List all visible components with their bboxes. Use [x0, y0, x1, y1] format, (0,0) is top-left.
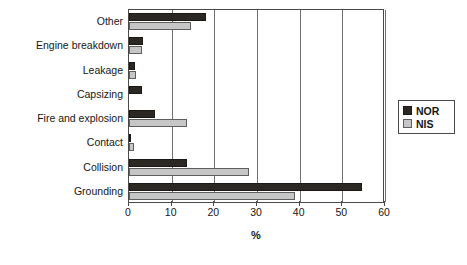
bar-group [129, 83, 383, 107]
bar-group [129, 131, 383, 155]
legend-item-nor: NOR [403, 104, 450, 117]
bar-nis [129, 71, 136, 79]
bar-nor [129, 159, 187, 167]
x-axis-tick-label-0: 0 [125, 206, 131, 219]
legend-label-nis: NIS [416, 118, 434, 130]
black-square-swatch-icon [403, 106, 412, 115]
y-axis-label-contact: Contact [0, 136, 123, 148]
x-axis-tick-label-10: 10 [165, 206, 177, 219]
y-axis-category-labels: OtherEngine breakdownLeakageCapsizingFir… [0, 9, 123, 203]
y-axis-label-capsizing: Capsizing [0, 88, 123, 100]
x-axis-tick-label-60: 60 [378, 206, 390, 219]
y-axis-label-fire-and-explosion: Fire and explosion [0, 112, 123, 124]
y-axis-label-other: Other [0, 15, 123, 27]
bar-nis [129, 168, 249, 176]
y-axis-label-grounding: Grounding [0, 185, 123, 197]
x-axis-tick-label-20: 20 [207, 206, 219, 219]
bar-group [129, 34, 383, 58]
bar-nis [129, 22, 191, 30]
x-axis-title: % [128, 229, 384, 241]
bar-group [129, 59, 383, 83]
legend-item-nis: NIS [403, 117, 450, 130]
plot-area [128, 9, 384, 203]
y-axis-label-collision: Collision [0, 161, 123, 173]
gray-square-swatch-icon [403, 119, 412, 128]
bar-nis [129, 192, 295, 200]
x-axis-tick-label-40: 40 [293, 206, 305, 219]
bar-group [129, 107, 383, 131]
bar-nor [129, 13, 206, 21]
bar-rows [129, 10, 383, 202]
legend-label-nor: NOR [416, 105, 439, 117]
x-axis-tick-label-30: 30 [250, 206, 262, 219]
x-axis-ticks: 0102030405060 [128, 206, 384, 222]
bar-nis [129, 46, 142, 54]
chart-legend: NOR NIS [398, 100, 455, 134]
gridline-60 [385, 10, 386, 202]
bar-nor [129, 37, 143, 45]
bar-nis [129, 119, 187, 127]
bar-nor [129, 86, 142, 94]
bar-group [129, 156, 383, 180]
bar-nor [129, 183, 362, 191]
bar-nis [129, 143, 134, 151]
y-axis-label-engine-breakdown: Engine breakdown [0, 39, 123, 51]
bar-nor [129, 62, 135, 70]
bar-nor [129, 110, 155, 118]
bar-nor [129, 134, 131, 142]
bar-chart: OtherEngine breakdownLeakageCapsizingFir… [0, 0, 467, 265]
x-axis-tick-label-50: 50 [335, 206, 347, 219]
bar-group [129, 10, 383, 34]
y-axis-label-leakage: Leakage [0, 64, 123, 76]
